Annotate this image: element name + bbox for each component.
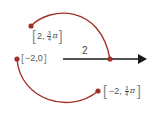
fraction: 3 4: [125, 86, 129, 97]
close-bracket: ]: [59, 29, 63, 43]
coords: −2,0: [25, 54, 43, 63]
radius: −2,: [109, 87, 122, 96]
open-bracket: [: [103, 84, 107, 98]
pi-symbol: π: [52, 32, 57, 40]
fraction: 3 4: [47, 31, 51, 42]
point-dot-p2: [14, 56, 19, 61]
close-bracket: ]: [137, 84, 141, 98]
pi-symbol: π: [130, 87, 135, 95]
close-bracket: ]: [44, 53, 47, 64]
radius: 2,: [37, 32, 45, 41]
arrowhead-icon: [138, 54, 147, 64]
point-label-p1: [ 2, 3 4 π ]: [32, 29, 63, 43]
axis-length-label: 2: [82, 46, 88, 56]
point-label-p3: [ −2, 3 4 π ]: [103, 84, 141, 98]
point-label-p2: [ −2,0 ]: [21, 53, 47, 64]
denominator: 4: [125, 92, 128, 97]
open-bracket: [: [21, 53, 24, 64]
lower-arc: [17, 59, 98, 102]
open-bracket: [: [32, 29, 36, 43]
point-dot-axis: [107, 56, 112, 61]
point-dot-p3: [95, 88, 100, 93]
denominator: 4: [48, 37, 51, 42]
